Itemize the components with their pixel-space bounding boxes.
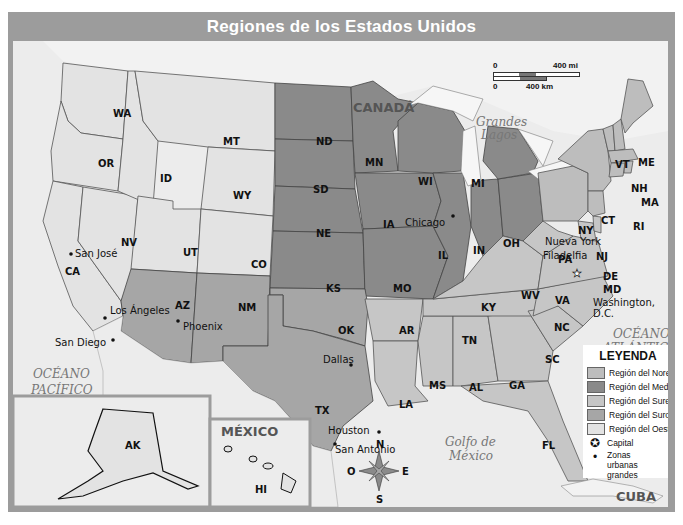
legend-swatch [587,395,605,407]
city-san-jose: San José [75,248,117,259]
state-label-mn: MN [365,157,383,168]
state-de [593,216,601,233]
state-label-ia: IA [383,219,395,230]
city-san-antonio: San Antonio [335,444,395,455]
state-label-oh: OH [503,238,520,249]
legend-item-southwest: Región del Suroeste [587,408,668,422]
state-ks [270,231,365,289]
map-area: AK HI WA OR CA NV ID MT WY UT C [13,41,668,507]
legend-item-southeast: Región del Sureste [587,394,668,408]
state-label-wa: WA [113,108,132,119]
state-label-ms: MS [429,380,446,391]
title-bar: Regiones de los Estados Unidos [8,12,675,41]
map-frame: Regiones de los Estados Unidos [8,12,675,512]
legend-item-west: Región del Oeste [587,422,668,436]
label-atlantic-1: OCÉANO [613,326,668,341]
state-label-or: OR [98,158,115,169]
state-label-wy: WY [233,190,252,201]
state-label-az: AZ [175,300,190,311]
state-label-tn: TN [462,335,477,346]
state-label-nh: NH [631,183,648,194]
legend-swatch [587,367,605,379]
label-pacific-1: OCÉANO [33,366,90,381]
scale-km-start: 0 [493,82,497,91]
state-label-va: VA [555,295,570,306]
state-label-fl: FL [542,440,556,451]
state-label-mo: MO [393,283,411,294]
city-dallas: Dallas [323,354,354,365]
state-label-nc: NC [554,322,570,333]
state-label-mi: MI [471,178,485,189]
city-los-angeles: Los Ángeles [110,304,170,316]
legend-swatch [587,423,605,435]
state-label-ct: CT [601,215,615,226]
state-label-md: MD [603,284,621,295]
state-label-nj: NJ [596,251,608,262]
state-label-sc: SC [545,354,560,365]
state-label-in: IN [473,245,485,256]
city-phoenix: Phoenix [183,321,223,332]
lake-michigan [461,126,481,186]
state-label-ma: MA [641,197,659,208]
label-pacific-2: PACÍFICO [30,382,93,397]
scale-km-end: 400 km [526,82,553,91]
state-label-sd: SD [313,184,329,195]
legend-item-urban: • Zonas urbanas grandes [587,450,668,472]
scale-bar: 0 400 mi 0 400 km [491,61,581,101]
capital-star-icon: ★ [572,267,582,280]
state-sd [275,139,355,189]
state-label-il: IL [438,250,449,261]
state-label-ok: OK [338,325,356,336]
capital-star-icon: ✪ [587,436,603,450]
label-gulf-2: México [448,449,493,463]
city-houston: Houston [328,425,370,436]
state-label-wv: WV [521,290,540,301]
label-great-lakes-2: Lagos [480,128,517,142]
compass-s: S [376,494,383,505]
label-cuba: CUBA [616,489,656,504]
city-chicago: Chicago [405,217,445,228]
state-label-ut: UT [183,247,198,258]
state-label-ar: AR [399,325,415,336]
label-mexico: MÉXICO [221,424,278,439]
state-label-ny: NY [578,225,594,236]
state-label-ri: RI [633,221,644,232]
state-label-la: LA [399,399,413,410]
state-label-nv: NV [121,237,137,248]
state-label-id: ID [160,173,172,184]
state-label-ga: GA [509,380,525,391]
state-label-nd: ND [316,136,333,147]
legend-title: LEYENDA [583,349,668,363]
state-label-me: ME [638,157,655,168]
legend: LEYENDA Región del Noreste Región del Me… [583,345,668,478]
scale-mi-end: 400 mi [553,61,578,70]
state-ut [131,196,201,273]
state-wy [201,147,275,216]
legend-item-capital: ✪ Capital [587,436,668,450]
state-label-ak: AK [125,440,142,451]
city-filadelfia: Filadelfia [543,250,587,261]
state-label-ks: KS [326,283,341,294]
state-label-ca: CA [65,266,80,277]
state-label-ky: KY [481,302,497,313]
urban-dot-icon: • [587,450,603,464]
compass-n: N [376,439,384,450]
state-label-tx: TX [315,405,330,416]
state-nd [275,83,353,141]
label-great-lakes-1: Grandes [476,115,527,129]
state-ms [418,316,453,386]
state-mt [135,71,275,151]
state-pa [538,166,588,221]
city-nueva-york: Nueva York [545,236,601,247]
state-label-de: DE [603,271,618,282]
map-title: Regiones de los Estados Unidos [207,17,477,37]
us-regions-map: AK HI WA OR CA NV ID MT WY UT C [13,41,668,507]
state-label-al: AL [469,382,484,393]
state-fl [461,381,588,481]
state-label-mt: MT [223,136,240,147]
state-label-ne: NE [316,228,331,239]
legend-item-midwest: Región del Medio Oeste [587,380,668,394]
compass-w: O [347,466,356,477]
legend-swatch [587,409,605,421]
compass-e: E [402,466,409,477]
